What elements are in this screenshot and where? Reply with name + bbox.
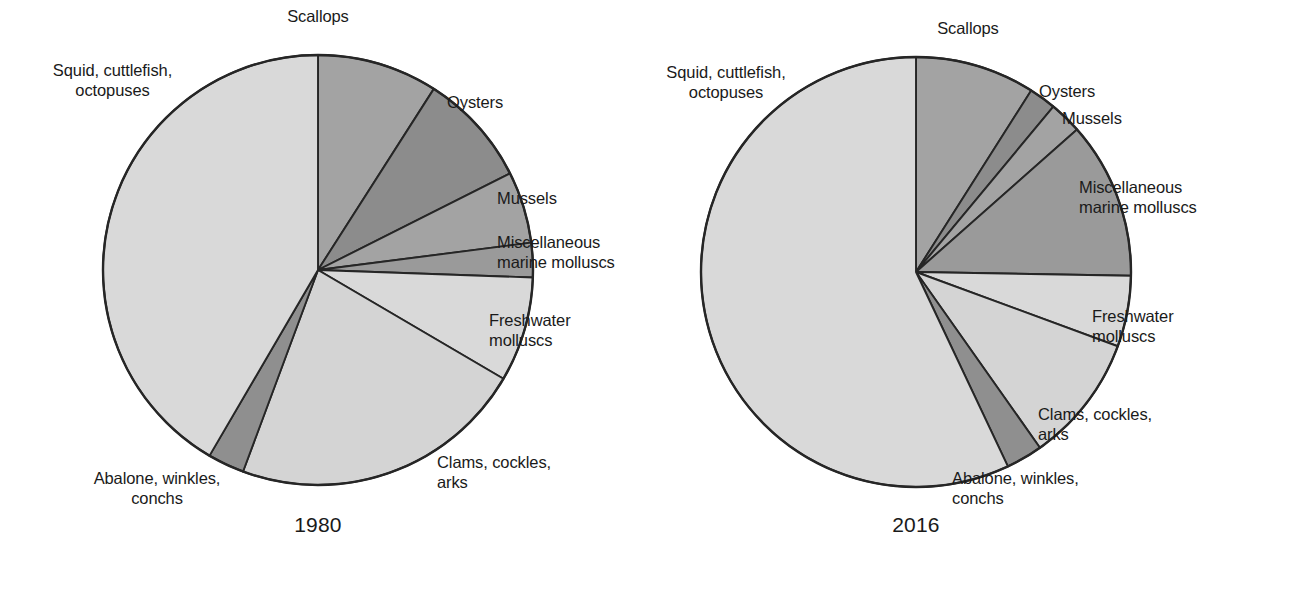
label-misc-marine-molluscs-2016: Miscellaneous marine molluscs — [1079, 177, 1254, 217]
label-squid-cuttlefish-octopuses-1980: Squid, cuttlefish, octopuses — [5, 60, 220, 100]
pie-outline — [103, 55, 533, 485]
label-clams-cockles-arks-1980: Clams, cockles, arks — [437, 452, 597, 492]
pie-slice[interactable] — [210, 270, 318, 472]
pie-slice[interactable] — [916, 57, 1031, 272]
chart-year-2016: 2016 — [816, 513, 1016, 537]
pie-slice[interactable] — [318, 55, 434, 270]
chart-year-1980: 1980 — [218, 513, 418, 537]
pie-slice[interactable] — [701, 57, 1008, 487]
molluscs-production-pie-figure: Scallops Oysters Mussels Miscellaneous m… — [0, 0, 1301, 590]
label-abalone-winkles-conchs-2016: Abalone, winkles, conchs — [952, 468, 1142, 508]
label-mussels-2016: Mussels — [1062, 108, 1192, 128]
label-clams-cockles-arks-2016: Clams, cockles, arks — [1038, 404, 1198, 444]
pie-chart-1980 — [103, 55, 533, 485]
label-mussels-1980: Mussels — [497, 188, 627, 208]
label-oysters-1980: Oysters — [447, 92, 577, 112]
label-abalone-winkles-conchs-1980: Abalone, winkles, conchs — [52, 468, 262, 508]
label-misc-marine-molluscs-1980: Miscellaneous marine molluscs — [497, 232, 657, 272]
label-freshwater-molluscs-2016: Freshwater molluscs — [1092, 306, 1232, 346]
label-scallops-1980: Scallops — [223, 6, 413, 26]
pie-slice[interactable] — [318, 89, 510, 270]
pie-slice[interactable] — [916, 90, 1053, 272]
label-squid-cuttlefish-octopuses-2016: Squid, cuttlefish, octopuses — [617, 62, 835, 102]
pie-slice[interactable] — [103, 55, 318, 456]
label-oysters-2016: Oysters — [1039, 81, 1169, 101]
pie-slice[interactable] — [916, 107, 1077, 272]
pie-slice[interactable] — [916, 272, 1040, 466]
label-scallops-2016: Scallops — [873, 18, 1063, 38]
label-freshwater-molluscs-1980: Freshwater molluscs — [489, 310, 629, 350]
